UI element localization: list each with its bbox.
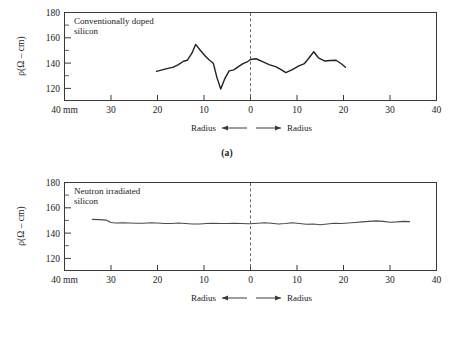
x-tick-label: 10 (292, 275, 302, 285)
y-tick-label: 160 (46, 203, 61, 213)
radius-annotation-a: Radius Radius (191, 123, 313, 133)
y-tick-label: 120 (46, 254, 61, 264)
x-tick-label: 20 (153, 275, 163, 285)
y-axis-title-a: ρ(Ω – cm) (16, 36, 27, 75)
y-tick-label: 120 (46, 84, 61, 94)
x-axis-tick-labels-a: 40 mm 30 20 10 0 10 20 30 40 (51, 105, 441, 115)
arrow-left-icon (222, 296, 228, 301)
x-tick-label: 10 (199, 275, 209, 285)
x-tick-label: 20 (339, 275, 349, 285)
x-tick-label: 40 (432, 275, 442, 285)
x-tick-label: 40 mm (51, 105, 78, 115)
y-tick-label: 180 (46, 178, 61, 188)
plot-label-line1: Conventionally doped (74, 16, 154, 26)
y-tick-label: 140 (46, 229, 61, 239)
plot-label-b: Neutron irradiated silicon (74, 186, 141, 206)
x-tick-label: 30 (385, 105, 395, 115)
x-tick-label: 20 (153, 105, 163, 115)
x-tick-label: 40 (432, 105, 442, 115)
y-tick-label: 180 (46, 8, 61, 18)
arrow-left-icon (222, 126, 228, 131)
plot-label-a: Conventionally doped silicon (74, 16, 154, 36)
x-axis-tick-labels-b: 40 mm 30 20 10 0 10 20 30 40 (51, 275, 441, 285)
x-tick-label: 40 mm (51, 275, 78, 285)
panel-a-chart: 180 160 140 120 ρ(Ω – cm) 40 (0, 0, 454, 170)
radius-label-left: Radius (191, 293, 216, 303)
x-tick-label: 0 (248, 105, 253, 115)
arrow-right-icon (275, 126, 281, 131)
x-tick-label: 10 (199, 105, 209, 115)
panel-caption-a: (a) (0, 148, 454, 158)
panel-b-chart: 180 160 140 120 ρ(Ω – cm) 40 mm 30 (0, 170, 454, 340)
radius-label-right: Radius (287, 293, 312, 303)
x-tick-label: 30 (385, 275, 395, 285)
y-tick-label: 140 (46, 59, 61, 69)
panel-a: 180 160 140 120 ρ(Ω – cm) 40 (0, 0, 454, 170)
radius-annotation-b: Radius Radius (191, 293, 313, 303)
x-tick-label: 0 (248, 275, 253, 285)
x-tick-label: 20 (339, 105, 349, 115)
x-tick-label: 10 (292, 105, 302, 115)
y-axis-tick-labels-b: 180 160 140 120 (46, 178, 61, 264)
arrow-right-icon (275, 296, 281, 301)
x-tick-label: 30 (106, 105, 116, 115)
y-axis-ticks-b (65, 183, 72, 259)
x-tick-label: 30 (106, 275, 116, 285)
y-axis-title-b: ρ(Ω – cm) (16, 206, 27, 245)
radius-label-left: Radius (191, 123, 216, 133)
radius-label-right: Radius (287, 123, 312, 133)
y-tick-label: 160 (46, 33, 61, 43)
plot-label-line2: silicon (74, 26, 98, 36)
y-axis-ticks-a (65, 13, 72, 89)
y-axis-tick-labels-a: 180 160 140 120 (46, 8, 61, 94)
plot-label-line2: silicon (74, 196, 98, 206)
figure-container: 180 160 140 120 ρ(Ω – cm) 40 (0, 0, 454, 341)
panel-b: 180 160 140 120 ρ(Ω – cm) 40 mm 30 (0, 170, 454, 340)
plot-label-line1: Neutron irradiated (74, 186, 141, 196)
